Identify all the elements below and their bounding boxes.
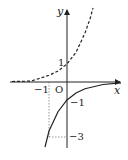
- y-axis-label: y: [56, 5, 64, 18]
- origin-label: O: [55, 84, 63, 95]
- y-tick-neg3: −3: [69, 131, 84, 142]
- dashed-curve: [12, 8, 93, 82]
- function-graph: y x O −1 1 −1 −3: [0, 0, 128, 160]
- y-tick-neg1: −1: [70, 97, 85, 108]
- x-tick-neg1: −1: [34, 84, 49, 95]
- x-axis-label: x: [114, 84, 121, 97]
- y-tick-1: 1: [58, 57, 64, 68]
